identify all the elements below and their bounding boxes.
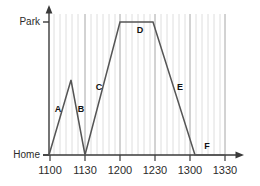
y-axis [43,5,52,155]
line-chart-journey-distance-vs-time: Park Home 1100 1130 1200 1230 1300 1330 … [0,0,260,186]
journey-line-series [49,22,225,155]
segment-label-a: A [55,104,62,114]
segment-label-c: C [96,82,103,92]
x-tick-label-1100: 1100 [38,164,62,176]
x-axis-arrow-icon [236,152,245,159]
x-tick-label-1330: 1330 [213,164,237,176]
y-axis-arrow-icon [46,5,53,14]
x-tick-label-1130: 1130 [73,164,97,176]
x-tick-label-1300: 1300 [178,164,202,176]
x-axis-ticks [50,155,225,161]
x-tick-label-1230: 1230 [143,164,167,176]
y-axis-bottom-label: Home [13,149,40,160]
y-axis-top-label: Park [19,16,41,27]
x-tick-label-1200: 1200 [108,164,132,176]
major-gridlines [85,14,225,155]
segment-label-f: F [204,141,210,151]
chart-canvas: Park Home 1100 1130 1200 1230 1300 1330 … [0,0,260,186]
segment-label-e: E [177,82,183,92]
minor-gridlines [54,14,220,155]
segment-label-b: B [78,104,85,114]
segment-label-d: D [137,25,144,35]
